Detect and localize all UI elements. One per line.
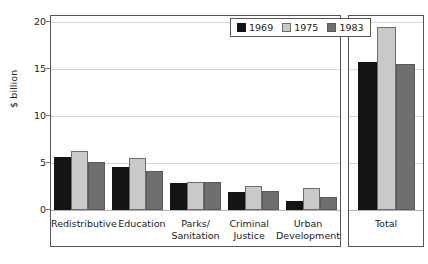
total-plot-area: Total bbox=[349, 22, 423, 210]
y-tick-label-20: 20 bbox=[22, 16, 46, 27]
bar-criminal-justice-1969 bbox=[228, 192, 245, 210]
category-label-education: Education bbox=[115, 218, 169, 230]
category-label-line1: Criminal bbox=[222, 218, 276, 230]
chart-legend: 1969 1975 1983 bbox=[230, 18, 371, 37]
legend-item-1975: 1975 bbox=[282, 22, 318, 33]
category-label-total: Total bbox=[351, 218, 421, 230]
y-tick-label-5: 5 bbox=[22, 157, 46, 168]
category-label-line1: Redistributive bbox=[51, 218, 115, 230]
main-chart-panel: Redistributive Education Parks/ Sanitati… bbox=[50, 15, 341, 247]
y-tick-label-15: 15 bbox=[22, 63, 46, 74]
bar-parks-sanitation-1975 bbox=[187, 182, 204, 210]
y-axis-ticks: 20 15 10 5 0 bbox=[22, 0, 46, 264]
category-label-line2: Development bbox=[276, 230, 340, 242]
y-axis-title: $ billion bbox=[8, 28, 22, 108]
legend-item-1969: 1969 bbox=[237, 22, 273, 33]
bar-urban-development-1983 bbox=[320, 197, 337, 210]
bar-groups bbox=[51, 22, 340, 210]
category-label-criminal-justice: Criminal Justice bbox=[222, 218, 276, 242]
legend-swatch-icon-1975 bbox=[282, 23, 291, 32]
baseline-0 bbox=[51, 210, 340, 211]
category-label-parks-sanitation: Parks/ Sanitation bbox=[169, 218, 223, 242]
bar-total-1969 bbox=[358, 62, 377, 211]
legend-swatch-icon-1983 bbox=[327, 23, 336, 32]
bar-education-1975 bbox=[129, 158, 146, 210]
bar-group-parks-sanitation bbox=[170, 22, 221, 210]
total-chart-panel: Total bbox=[348, 15, 424, 247]
category-label-line1: Urban bbox=[276, 218, 340, 230]
bar-redistributive-1975 bbox=[71, 151, 88, 210]
total-bar-groups bbox=[349, 22, 423, 210]
bar-chart-figure: $ billion 20 15 10 5 0 bbox=[0, 0, 428, 264]
total-category-labels: Total bbox=[349, 218, 423, 230]
y-tick-label-0: 0 bbox=[22, 204, 46, 215]
category-label-redistributive: Redistributive bbox=[51, 218, 115, 230]
legend-label-1969: 1969 bbox=[249, 22, 273, 33]
bar-parks-sanitation-1969 bbox=[170, 183, 187, 210]
bar-education-1983 bbox=[146, 171, 163, 211]
legend-item-1983: 1983 bbox=[327, 22, 363, 33]
bar-criminal-justice-1983 bbox=[262, 191, 279, 210]
category-label-line1: Education bbox=[115, 218, 169, 230]
category-labels: Redistributive Education Parks/ Sanitati… bbox=[51, 218, 340, 242]
bar-education-1969 bbox=[112, 167, 129, 210]
category-label-line2: Justice bbox=[222, 230, 276, 242]
bar-group-criminal-justice bbox=[228, 22, 279, 210]
bar-group-redistributive bbox=[54, 22, 105, 210]
bar-redistributive-1969 bbox=[54, 157, 71, 210]
bar-redistributive-1983 bbox=[88, 162, 105, 210]
legend-label-1975: 1975 bbox=[294, 22, 318, 33]
bar-total-1983 bbox=[396, 64, 415, 210]
category-label-urban-development: Urban Development bbox=[276, 218, 340, 242]
bar-group-urban-development bbox=[286, 22, 337, 210]
legend-label-1983: 1983 bbox=[339, 22, 363, 33]
category-label-line2: Sanitation bbox=[169, 230, 223, 242]
bar-total-1975 bbox=[377, 27, 396, 210]
main-plot-area: Redistributive Education Parks/ Sanitati… bbox=[51, 22, 340, 210]
legend-swatch-icon-1969 bbox=[237, 23, 246, 32]
bar-group-education bbox=[112, 22, 163, 210]
category-label-line1: Parks/ bbox=[169, 218, 223, 230]
bar-urban-development-1969 bbox=[286, 201, 303, 210]
bar-group-total bbox=[358, 22, 415, 210]
y-tick-label-10: 10 bbox=[22, 110, 46, 121]
bar-urban-development-1975 bbox=[303, 188, 320, 210]
bar-parks-sanitation-1983 bbox=[204, 182, 221, 210]
total-baseline-0 bbox=[349, 210, 423, 211]
bar-criminal-justice-1975 bbox=[245, 186, 262, 210]
